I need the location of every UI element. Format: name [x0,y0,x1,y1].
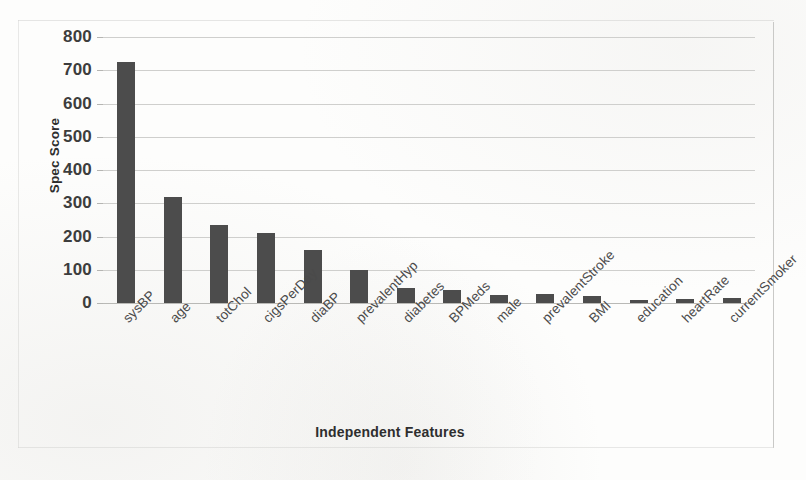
bar [117,62,135,303]
y-axis-tick-mark [97,203,103,204]
y-axis-tick-label: 0 [82,293,92,313]
x-axis-tick-labels: sysBPagetotCholcigsPerDaydiaBPprevalentH… [103,303,755,423]
y-axis-tick-label: 400 [63,160,92,180]
bar [350,270,368,303]
x-axis-tick-label: age [167,299,194,326]
y-axis-tick-label: 200 [63,227,92,247]
gridline [103,203,755,204]
chart-frame-bottom [18,447,774,448]
bar [210,225,228,303]
bar [397,288,415,303]
y-axis-tick-mark [97,104,103,105]
y-axis-tick-label: 700 [63,60,92,80]
gridline [103,137,755,138]
y-axis-tick-label: 300 [63,193,92,213]
y-axis-tick-label: 600 [63,94,92,114]
chart-frame-top [18,20,774,21]
gridline [103,170,755,171]
y-axis-tick-mark [97,137,103,138]
y-axis-tick-labels: 0100200300400500600700800 [24,37,92,303]
y-axis-tick-mark [97,270,103,271]
y-axis-tick-mark [97,37,103,38]
chart-frame-left [18,20,19,448]
gridline [103,270,755,271]
chart-frame-right [773,22,774,448]
x-axis-title: Independent Features [0,424,780,440]
bar [164,197,182,303]
bar [257,233,275,303]
gridline [103,37,755,38]
bar-chart: Spec Score 0100200300400500600700800 sys… [0,0,806,480]
y-axis-tick-mark [97,170,103,171]
gridline [103,70,755,71]
y-axis-tick-mark [97,237,103,238]
y-axis-tick-label: 500 [63,127,92,147]
gridline [103,237,755,238]
y-axis-tick-label: 100 [63,260,92,280]
y-axis-tick-mark [97,70,103,71]
plot-area [103,37,755,303]
y-axis-tick-label: 800 [63,27,92,47]
gridline [103,104,755,105]
